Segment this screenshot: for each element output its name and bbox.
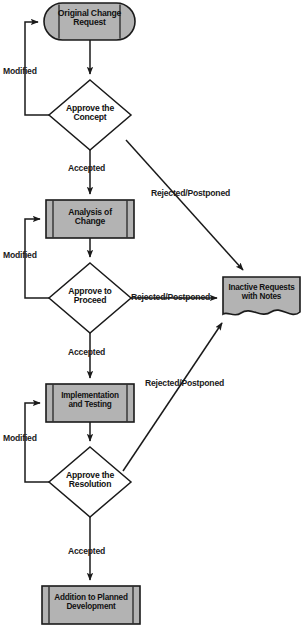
- node-label-addition-to-planned-development: Addition to Planned Development: [45, 594, 137, 612]
- edge-resolution-rejected: [123, 323, 222, 471]
- edge-label-rejected-2: Rejected/Postponed: [131, 292, 210, 302]
- node-label-line2: with Notes: [225, 293, 298, 302]
- edge-label-accepted-1: Accepted: [68, 163, 105, 173]
- edge-label-modified-1: Modified: [3, 66, 37, 76]
- edge-label-modified-3: Modified: [3, 433, 37, 443]
- flowchart-canvas: Original Change Request Approve the Conc…: [0, 0, 306, 628]
- node-label-line2: Change: [50, 217, 130, 226]
- edge-label-rejected-1: Rejected/Postponed: [151, 188, 230, 198]
- node-label-line2: Request: [48, 18, 131, 27]
- edge-label-accepted-3: Accepted: [68, 546, 105, 556]
- node-label-approve-the-resolution: Approve the Resolution: [52, 471, 128, 490]
- node-label-approve-to-proceed: Approve to Proceed: [52, 287, 128, 306]
- edge-label-accepted-2: Accepted: [68, 347, 105, 357]
- node-label-line2: Resolution: [52, 480, 128, 489]
- node-label-line2: Concept: [52, 113, 128, 122]
- node-label-line2: Proceed: [52, 296, 128, 305]
- edge-label-modified-2: Modified: [3, 250, 37, 260]
- node-label-analysis-of-change: Analysis of Change: [50, 208, 130, 227]
- edge-label-rejected-3: Rejected/Postponed: [145, 378, 224, 388]
- node-label-approve-the-concept: Approve the Concept: [52, 104, 128, 123]
- node-label-line2: and Testing: [49, 401, 131, 410]
- node-label-inactive-requests-with-notes: Inactive Requests with Notes: [225, 284, 298, 302]
- edge-concept-rejected: [126, 140, 243, 270]
- node-label-line2: Development: [45, 603, 137, 612]
- node-label-original-change-request: Original Change Request: [48, 9, 131, 28]
- node-label-implementation-and-testing: Implementation and Testing: [49, 392, 131, 410]
- flowchart-graphics: [0, 0, 306, 628]
